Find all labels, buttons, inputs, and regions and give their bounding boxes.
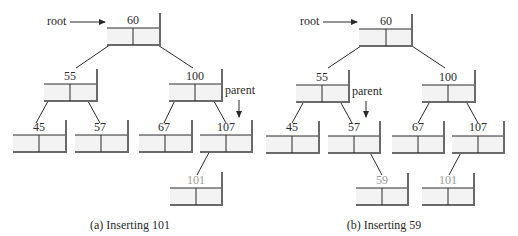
root-pointer-a: root — [47, 14, 105, 28]
tree-node: 100 — [422, 70, 475, 103]
tree-node-parent: 107 — [200, 120, 253, 153]
node-key: 57 — [348, 120, 360, 134]
tree-node: 45 — [13, 120, 66, 153]
node-key: 45 — [33, 120, 45, 134]
tree-node: 101 — [422, 173, 475, 206]
node-key: 55 — [316, 70, 328, 84]
root-label: root — [47, 14, 67, 28]
parent-pointer-a: parent — [225, 83, 256, 117]
tree-node-inserted: 101 — [170, 172, 223, 206]
node-key: 107 — [217, 120, 235, 134]
node-key: 60 — [127, 13, 139, 27]
tree-node: 67 — [139, 120, 192, 153]
node-key: 67 — [158, 120, 170, 134]
node-key: 45 — [286, 120, 298, 134]
panel-a: root parent 60 55 — [13, 13, 256, 232]
node-key: 55 — [64, 69, 76, 83]
tree-node: 55 — [44, 69, 97, 102]
parent-pointer-b: parent — [352, 84, 383, 117]
parent-label: parent — [225, 83, 256, 97]
tree-node: 100 — [169, 69, 222, 102]
panel-b-edges — [292, 38, 478, 175]
node-key: 101 — [187, 173, 205, 187]
tree-node: 57 — [75, 120, 128, 153]
tree-node: 107 — [452, 120, 505, 154]
tree-node: 55 — [296, 70, 349, 103]
tree-node: 45 — [266, 120, 319, 154]
panel-a-edges — [36, 38, 226, 175]
node-key: 100 — [186, 69, 204, 83]
bst-insertion-diagram: root parent 60 55 — [0, 0, 518, 236]
tree-node: 60 — [107, 13, 160, 46]
node-key: 57 — [94, 120, 106, 134]
node-key: 101 — [439, 173, 457, 187]
tree-node: 67 — [392, 120, 445, 154]
root-label: root — [300, 14, 320, 28]
parent-label: parent — [352, 84, 383, 98]
tree-node-parent: 57 — [328, 120, 381, 154]
node-key: 60 — [380, 14, 392, 28]
node-key: 100 — [439, 70, 457, 84]
tree-node-inserted: 59 — [356, 173, 409, 206]
root-pointer-b: root — [300, 14, 357, 28]
node-key: 107 — [469, 120, 487, 134]
caption-a: (a) Inserting 101 — [90, 218, 170, 232]
panel-b: root parent 60 55 — [266, 14, 505, 232]
node-key: 67 — [412, 120, 424, 134]
tree-node: 60 — [359, 14, 412, 47]
caption-b: (b) Inserting 59 — [347, 218, 422, 232]
node-key: 59 — [376, 173, 388, 187]
